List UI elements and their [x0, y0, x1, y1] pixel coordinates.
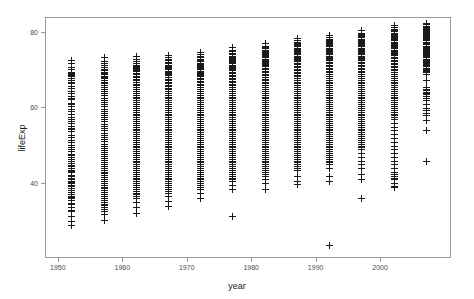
data-point	[229, 50, 236, 57]
data-point	[358, 37, 365, 44]
data-point	[101, 169, 108, 176]
data-point	[229, 79, 236, 86]
data-point	[262, 101, 269, 108]
data-point	[391, 82, 398, 89]
data-point	[262, 95, 269, 102]
data-point	[197, 120, 204, 127]
data-point	[197, 82, 204, 89]
data-point	[391, 95, 398, 102]
data-point	[165, 193, 172, 200]
x-tick-mark	[187, 258, 188, 262]
data-point	[133, 169, 140, 176]
data-point	[391, 49, 398, 56]
data-point	[423, 57, 430, 64]
data-point	[165, 64, 172, 71]
data-point	[68, 158, 75, 165]
data-point	[229, 66, 236, 73]
data-point	[358, 165, 365, 172]
data-point	[229, 65, 236, 72]
data-point	[101, 155, 108, 162]
data-point	[391, 88, 398, 95]
data-point	[229, 129, 236, 136]
data-point	[133, 122, 140, 129]
x-tick-label: 1960	[115, 264, 131, 271]
data-point	[197, 118, 204, 125]
data-point	[101, 84, 108, 91]
data-point	[197, 182, 204, 189]
data-point	[165, 62, 172, 69]
data-point	[101, 58, 108, 65]
data-point	[391, 180, 398, 187]
data-point	[326, 66, 333, 73]
data-point	[358, 143, 365, 150]
data-point	[358, 127, 365, 134]
data-point	[68, 106, 75, 113]
data-point	[68, 95, 75, 102]
data-point	[197, 173, 204, 180]
data-point	[262, 56, 269, 63]
data-point	[133, 124, 140, 131]
data-point	[229, 94, 236, 101]
data-point	[294, 114, 301, 121]
data-point	[101, 88, 108, 95]
data-point	[391, 50, 398, 57]
data-point	[101, 145, 108, 152]
data-point	[262, 141, 269, 148]
data-point	[391, 75, 398, 82]
data-point	[68, 80, 75, 87]
data-point	[358, 139, 365, 146]
data-point	[391, 184, 398, 191]
data-point	[68, 152, 75, 159]
data-point	[391, 77, 398, 84]
data-point	[326, 71, 333, 78]
data-point	[197, 72, 204, 79]
data-point	[197, 79, 204, 86]
data-point	[101, 149, 108, 156]
data-point	[165, 126, 172, 133]
data-point	[326, 116, 333, 123]
data-point	[133, 66, 140, 73]
data-point	[358, 137, 365, 144]
data-point	[358, 77, 365, 84]
data-point	[262, 40, 269, 47]
data-point	[133, 154, 140, 161]
data-point	[101, 199, 108, 206]
data-point	[326, 148, 333, 155]
data-point	[294, 42, 301, 49]
data-point	[101, 136, 108, 143]
data-point	[326, 135, 333, 142]
data-point	[326, 139, 333, 146]
data-point	[423, 32, 430, 39]
data-point	[197, 148, 204, 155]
data-point	[229, 111, 236, 118]
data-point	[358, 126, 365, 133]
data-point	[68, 185, 75, 192]
data-point	[197, 122, 204, 129]
data-point	[294, 43, 301, 50]
data-point	[165, 109, 172, 116]
data-point	[294, 64, 301, 71]
data-point	[101, 211, 108, 218]
data-point	[262, 120, 269, 127]
data-point	[229, 72, 236, 79]
data-point	[326, 146, 333, 153]
data-point	[262, 59, 269, 66]
data-point	[133, 141, 140, 148]
data-point	[165, 198, 172, 205]
data-point	[229, 55, 236, 62]
data-point	[358, 54, 365, 61]
data-point	[165, 54, 172, 61]
data-point	[165, 156, 172, 163]
data-point	[326, 152, 333, 159]
data-point	[262, 146, 269, 153]
data-point	[197, 60, 204, 67]
data-point	[101, 66, 108, 73]
data-point	[101, 125, 108, 132]
data-point	[101, 130, 108, 137]
data-point	[165, 159, 172, 166]
x-tick-mark	[58, 258, 59, 262]
data-point	[294, 58, 301, 65]
data-point	[326, 159, 333, 166]
data-point	[133, 114, 140, 121]
x-tick-label: 1950	[50, 264, 66, 271]
